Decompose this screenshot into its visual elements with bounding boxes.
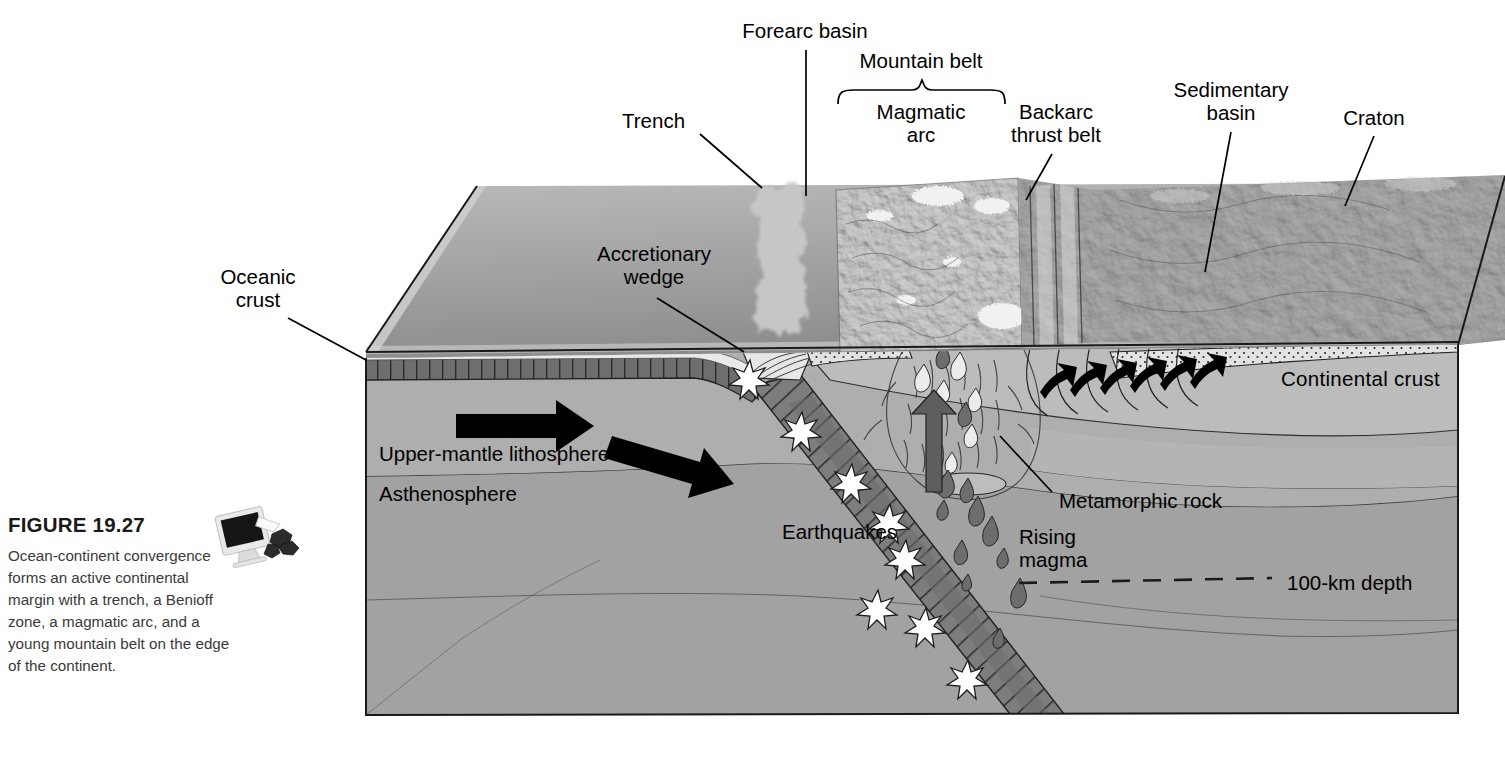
foreland-craton-terrain: [1096, 175, 1505, 345]
label-accretionary-wedge: Accretionary wedge: [564, 243, 744, 289]
label-trench: Trench: [622, 110, 685, 133]
label-upper-mantle-lithosphere: Upper-mantle lithosphere: [379, 443, 609, 466]
label-depth-marker: 100-km depth: [1287, 572, 1412, 595]
backarc-thrust-terrain: [1018, 178, 1100, 348]
label-craton: Craton: [1299, 107, 1449, 130]
label-mountain-belt: Mountain belt: [821, 50, 1021, 73]
label-backarc-thrust-belt: Backarc thrust belt: [981, 101, 1131, 147]
label-metamorphic-rock: Metamorphic rock: [1059, 490, 1222, 513]
label-forearc-basin: Forearc basin: [705, 20, 905, 43]
label-asthenosphere: Asthenosphere: [379, 483, 517, 506]
cross-section-face: [366, 336, 1458, 717]
leader-trench: [700, 134, 762, 188]
figure-number: FIGURE 19.27: [8, 515, 236, 536]
leader-oceanic-crust: [288, 318, 366, 360]
figure-stage: Trench Forearc basin Mountain belt Magma…: [0, 0, 1505, 762]
figure-caption-block: FIGURE 19.27 Ocean-continent convergence…: [8, 515, 236, 678]
figure-caption-text: Ocean-continent convergence forms an act…: [8, 545, 236, 678]
label-continental-crust: Continental crust: [1281, 368, 1440, 391]
label-rising-magma: Rising magma: [1019, 526, 1087, 572]
label-oceanic-crust: Oceanic crust: [183, 266, 333, 312]
trench-feature: [755, 188, 806, 334]
label-earthquakes: Earthquakes: [782, 521, 897, 544]
label-magmatic-arc: Magmatic arc: [846, 101, 996, 147]
magmatic-arc-terrain: [836, 178, 1026, 352]
label-sedimentary-basin: Sedimentary basin: [1141, 79, 1321, 125]
